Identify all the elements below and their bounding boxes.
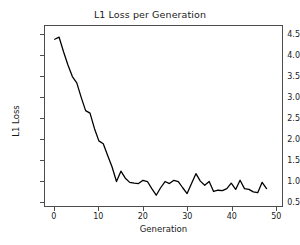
x-tick-label: 20 bbox=[138, 212, 148, 221]
y-tick-mark bbox=[40, 181, 44, 182]
y-tick-mark bbox=[40, 202, 44, 203]
x-tick-mark bbox=[276, 207, 277, 211]
x-tick-mark bbox=[187, 207, 188, 211]
x-tick-mark bbox=[232, 207, 233, 211]
y-axis-title: L1 Loss bbox=[11, 91, 21, 151]
y-tick-mark bbox=[40, 97, 44, 98]
page-title: L1 Loss per Generation bbox=[0, 9, 300, 20]
y-tick-mark bbox=[40, 118, 44, 119]
x-axis-title: Generation bbox=[44, 224, 283, 234]
y-tick-mark bbox=[40, 76, 44, 77]
x-tick-label: 30 bbox=[182, 212, 192, 221]
x-tick-label: 40 bbox=[227, 212, 237, 221]
x-tick-label: 50 bbox=[271, 212, 281, 221]
plot-area bbox=[44, 25, 283, 207]
x-tick-mark bbox=[143, 207, 144, 211]
y-tick-mark bbox=[40, 34, 44, 35]
x-tick-mark bbox=[54, 207, 55, 211]
x-tick-label: 10 bbox=[93, 212, 103, 221]
y-tick-mark bbox=[40, 160, 44, 161]
x-tick-mark bbox=[98, 207, 99, 211]
y-tick-mark bbox=[40, 55, 44, 56]
y-tick-mark bbox=[40, 139, 44, 140]
chart-figure: L1 Loss per Generation 0.51.01.52.02.53.… bbox=[0, 0, 300, 245]
line-series-l1-loss bbox=[45, 26, 282, 206]
x-tick-label: 0 bbox=[51, 212, 56, 221]
